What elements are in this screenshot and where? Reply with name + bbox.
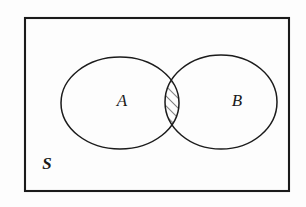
universe-label: S	[42, 154, 51, 173]
set-a-label: A	[116, 91, 128, 110]
venn-diagram-figure: A B S	[0, 0, 306, 207]
set-b-label: B	[232, 91, 243, 110]
venn-diagram-canvas: A B S	[0, 0, 306, 207]
universe-rectangle	[25, 18, 289, 191]
set-b-ellipse	[165, 55, 277, 149]
